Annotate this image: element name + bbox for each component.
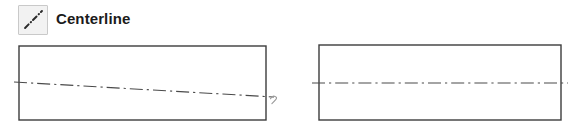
left-part-rectangle bbox=[19, 46, 266, 120]
centerline-diagonal-dashdot-icon bbox=[19, 6, 47, 34]
technical-drawing-canvas bbox=[0, 38, 578, 129]
centerline-tool-button[interactable] bbox=[18, 5, 48, 35]
right-part-group bbox=[312, 45, 568, 120]
centerline-tool-label: Centerline bbox=[56, 9, 130, 29]
left-part-group bbox=[14, 46, 277, 120]
drawing-area bbox=[0, 38, 578, 129]
toolbar: Centerline bbox=[0, 0, 578, 42]
